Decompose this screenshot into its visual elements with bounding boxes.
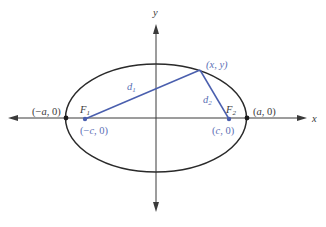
focus2-dot bbox=[227, 117, 231, 121]
point-on-ellipse-label: (x, y) bbox=[206, 59, 228, 71]
x-axis-label: x bbox=[311, 113, 317, 124]
d2-label: d2 bbox=[203, 94, 212, 107]
focus1-name-label: F1 bbox=[79, 104, 90, 117]
focus2-coord-label: (c, 0) bbox=[212, 125, 235, 137]
diagram-canvas: y x (−a, 0) (a, 0) F1 F2 (−c, 0) (c, 0) … bbox=[0, 0, 326, 227]
focus1-dot bbox=[83, 117, 87, 121]
right-vertex-label: (a, 0) bbox=[253, 106, 276, 118]
x-axis-left-arrow-icon bbox=[8, 115, 18, 121]
left-vertex-label: (−a, 0) bbox=[32, 106, 61, 118]
y-axis-label: y bbox=[152, 7, 158, 18]
x-axis-right-arrow-icon bbox=[297, 115, 307, 121]
d1-line bbox=[85, 70, 200, 119]
left-vertex-dot bbox=[64, 116, 69, 121]
ellipse-foci-diagram: y x (−a, 0) (a, 0) F1 F2 (−c, 0) (c, 0) … bbox=[0, 0, 326, 227]
right-vertex-dot bbox=[245, 116, 250, 121]
y-axis-down-arrow-icon bbox=[153, 202, 159, 212]
y-axis-up-arrow-icon bbox=[153, 24, 159, 34]
focus1-coord-label: (−c, 0) bbox=[80, 125, 109, 137]
d1-label: d1 bbox=[127, 81, 136, 94]
